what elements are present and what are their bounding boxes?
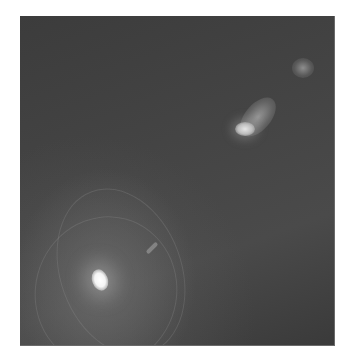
nebula-filament bbox=[20, 200, 194, 346]
jet-tip bbox=[292, 58, 314, 78]
astronomical-photo bbox=[20, 16, 335, 346]
jet-knot bbox=[235, 122, 255, 136]
